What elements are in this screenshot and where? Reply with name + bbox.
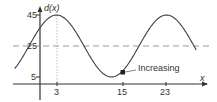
x-tick-label: 23 — [160, 88, 170, 97]
x-tick-label: 15 — [117, 88, 127, 97]
annotation-label: Increasing — [138, 64, 180, 73]
y-axis-label: d(x) — [44, 4, 60, 13]
y-tick-label: 45 — [27, 11, 37, 20]
annotation-leader — [125, 70, 136, 72]
chart: d(x) x 45 25 5 3 15 23 Increasing — [0, 0, 217, 102]
x-tick-label: 3 — [54, 88, 59, 97]
x-axis-label: x — [200, 74, 205, 83]
y-tick-label: 25 — [27, 42, 37, 51]
y-axis-arrow-icon — [38, 6, 43, 12]
annotation-marker — [121, 70, 126, 75]
y-tick-label: 5 — [31, 73, 36, 82]
